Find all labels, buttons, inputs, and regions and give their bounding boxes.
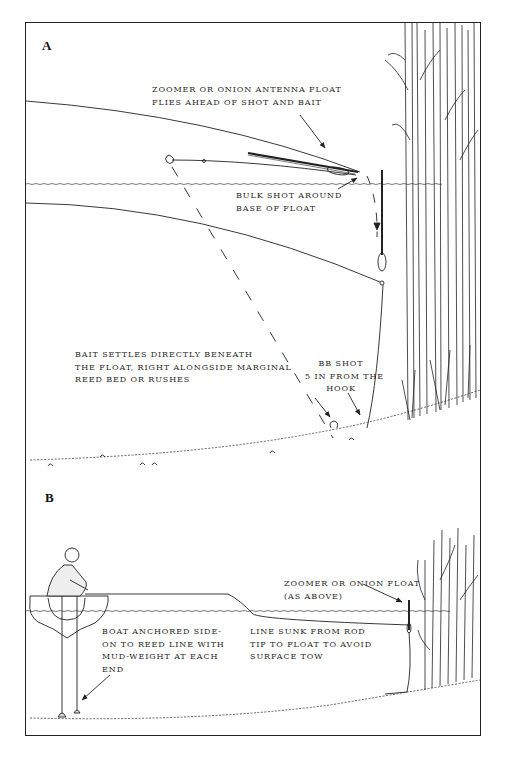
label-line-sunk: LINE SUNK FROM ROD TIP TO FLOAT TO AVOID… [250,626,372,664]
label-bb-shot: BB SHOT 5 IN FROM THE HOOK [305,358,377,396]
angler [47,548,88,596]
label-float-flight: ZOOMER OR ONION ANTENNA FLOAT FLIES AHEA… [152,84,342,109]
panel-b-letter: B [45,490,54,506]
panel-b-drawing [26,528,480,719]
panel-a-letter: A [42,38,51,54]
label-bulk-shot: BULK SHOT AROUND BASE OF FLOAT [236,190,342,215]
label-float-b: ZOOMER OR ONION FLOAT (AS ABOVE) [284,578,420,603]
label-bait-settles: BAIT SETTLES DIRECTLY BENEATH THE FLOAT,… [75,349,292,387]
reed-bed-b [417,528,478,690]
water-surface-b [26,611,450,612]
hook-line [367,285,383,428]
boat-hull [30,596,108,638]
bait-flying [166,155,174,164]
reed-bed-a [385,22,478,420]
lake-bed-a [30,390,480,460]
water-surface-a [26,184,442,185]
line-in-air [26,101,360,172]
label-boat: BOAT ANCHORED SIDE- ON TO REED LINE WITH… [102,626,225,676]
